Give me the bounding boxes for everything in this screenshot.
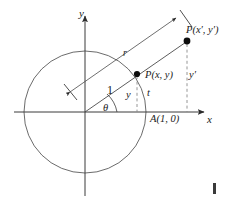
page-corner-mark [213, 183, 216, 194]
point-label-a: A(1, 0) [150, 114, 179, 125]
radius-label-unit: 1 [107, 84, 113, 96]
y-axis-label: y [79, 8, 84, 19]
point-label-unit: P(x, y) [145, 70, 173, 81]
arc-parameter-label: t [147, 88, 150, 99]
x-axis-label: x [207, 114, 212, 125]
height-label-unit: y [126, 90, 131, 101]
point-label-scaled: P(x′, y′) [186, 25, 219, 36]
figure-canvas: y x P(x′, y′) P(x, y) A(1, 0) r 1 θ y t … [0, 0, 229, 206]
point-marker-scaled [184, 38, 191, 45]
radius-label-scaled: r [123, 49, 127, 59]
point-marker-unit [134, 71, 140, 77]
height-label-scaled: y′ [189, 70, 196, 81]
angle-label: θ [103, 103, 108, 114]
dimension-tick-start [64, 84, 77, 100]
